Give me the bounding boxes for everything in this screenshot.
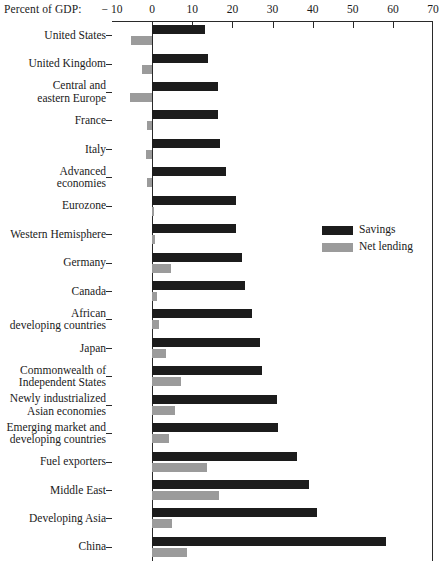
category-label: Central and eastern Europe (0, 79, 106, 104)
legend-swatch-savings (322, 226, 353, 235)
bar-net-lending (152, 434, 169, 443)
bar-savings (152, 480, 308, 489)
bar-net-lending (146, 150, 152, 159)
x-tick-label-70: 70 (427, 3, 439, 15)
bar-row: China (0, 533, 441, 561)
category-tick-mark (106, 490, 112, 491)
bar-savings (152, 508, 317, 517)
bar-net-lending (152, 491, 219, 500)
x-tick-label-0: 0 (149, 3, 155, 15)
bar-savings (152, 395, 276, 404)
legend-label-net-lending: Net lending (359, 239, 413, 254)
bar-row: Newly industrialized Asian economies (0, 390, 441, 418)
bar-net-lending (152, 463, 207, 472)
bar-savings (152, 167, 226, 176)
bar-savings (152, 423, 278, 432)
category-tick-mark (106, 376, 112, 377)
x-tick-label-20: 20 (227, 3, 239, 15)
bar-net-lending (152, 519, 172, 528)
category-label: Commonwealth of Independent States (0, 364, 106, 389)
bar-savings (152, 253, 241, 262)
bar-net-lending (152, 406, 174, 415)
bar-row: Advanced economies (0, 163, 441, 191)
bar-savings (152, 25, 205, 34)
category-label: United Kingdom (0, 57, 106, 70)
category-tick-mark (106, 263, 112, 264)
x-tick-label-10: 10 (187, 3, 199, 15)
category-label: China (0, 540, 106, 553)
bar-savings (152, 366, 262, 375)
category-label: Emerging market and developing countries (0, 421, 106, 446)
category-label: Fuel exporters (0, 455, 106, 468)
bar-net-lending (130, 93, 152, 102)
bar-savings (152, 82, 218, 91)
category-tick-mark (106, 149, 112, 150)
legend-label-savings: Savings (359, 222, 395, 237)
category-tick-mark (106, 177, 112, 178)
bar-savings (152, 54, 208, 63)
category-label: Canada (0, 285, 106, 298)
bar-rows-container: United StatesUnited KingdomCentral and e… (0, 21, 441, 561)
bar-row: African developing countries (0, 305, 441, 333)
category-label: Eurozone (0, 199, 106, 212)
category-label: Middle East (0, 484, 106, 497)
bar-row: Japan (0, 334, 441, 362)
category-tick-mark (106, 35, 112, 36)
bar-savings (152, 196, 235, 205)
bar-net-lending (152, 548, 187, 557)
category-label: Germany (0, 256, 106, 269)
bar-row: France (0, 106, 441, 134)
category-label: Developing Asia (0, 512, 106, 525)
bar-net-lending (152, 349, 166, 358)
category-tick-mark (106, 518, 112, 519)
category-label: France (0, 114, 106, 127)
bar-savings (152, 537, 386, 546)
x-axis-header: Percent of GDP: − 10010203040506070 (0, 0, 441, 22)
bar-net-lending (131, 36, 152, 45)
category-tick-mark (106, 319, 112, 320)
category-tick-mark (106, 348, 112, 349)
bar-net-lending (142, 65, 152, 74)
category-label: Italy (0, 143, 106, 156)
legend-swatch-net-lending (322, 243, 353, 252)
bar-row: Italy (0, 135, 441, 163)
bar-net-lending (152, 264, 171, 273)
category-label: Newly industrialized Asian economies (0, 392, 106, 417)
category-tick-mark (106, 92, 112, 93)
bar-savings (152, 338, 260, 347)
bar-row: United States (0, 21, 441, 49)
bar-savings (152, 224, 236, 233)
category-tick-mark (106, 206, 112, 207)
bar-row: Fuel exporters (0, 447, 441, 475)
category-label: Japan (0, 342, 106, 355)
category-tick-mark (106, 64, 112, 65)
bar-net-lending (147, 121, 152, 130)
bar-savings (152, 452, 296, 461)
category-label: United States (0, 29, 106, 42)
bar-savings (152, 281, 245, 290)
bar-savings (152, 110, 217, 119)
category-tick-mark (106, 234, 112, 235)
bar-net-lending (152, 320, 158, 329)
bar-row: Central and eastern Europe (0, 78, 441, 106)
category-label: African developing countries (0, 307, 106, 332)
x-tick-label-50: 50 (347, 3, 359, 15)
category-label: Advanced economies (0, 165, 106, 190)
x-tick-label-neg10: − 10 (102, 3, 123, 15)
category-tick-mark (106, 120, 112, 121)
bar-net-lending (152, 235, 155, 244)
chart-root: Percent of GDP: − 10010203040506070 Unit… (0, 0, 441, 565)
bar-net-lending (147, 178, 152, 187)
bar-row: Eurozone (0, 192, 441, 220)
bar-net-lending (152, 207, 154, 216)
category-tick-mark (106, 462, 112, 463)
bar-row: Developing Asia (0, 504, 441, 532)
category-tick-mark (106, 291, 112, 292)
category-tick-mark (106, 405, 112, 406)
bar-row: Canada (0, 277, 441, 305)
x-tick-label-40: 40 (307, 3, 319, 15)
category-label: Western Hemisphere (0, 228, 106, 241)
bar-net-lending (152, 377, 181, 386)
x-tick-label-30: 30 (267, 3, 279, 15)
category-tick-mark (106, 547, 112, 548)
